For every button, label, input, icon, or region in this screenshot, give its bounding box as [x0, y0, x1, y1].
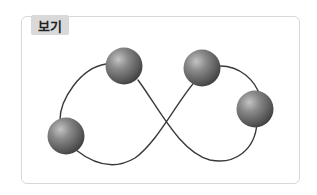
- sphere-bottom-left: [48, 118, 85, 155]
- sphere-right: [237, 91, 274, 128]
- figure-eight-curve: [60, 64, 260, 165]
- sphere-top-left: [106, 48, 143, 85]
- figure-eight-diagram: [0, 0, 317, 195]
- sphere-top-right: [184, 50, 221, 87]
